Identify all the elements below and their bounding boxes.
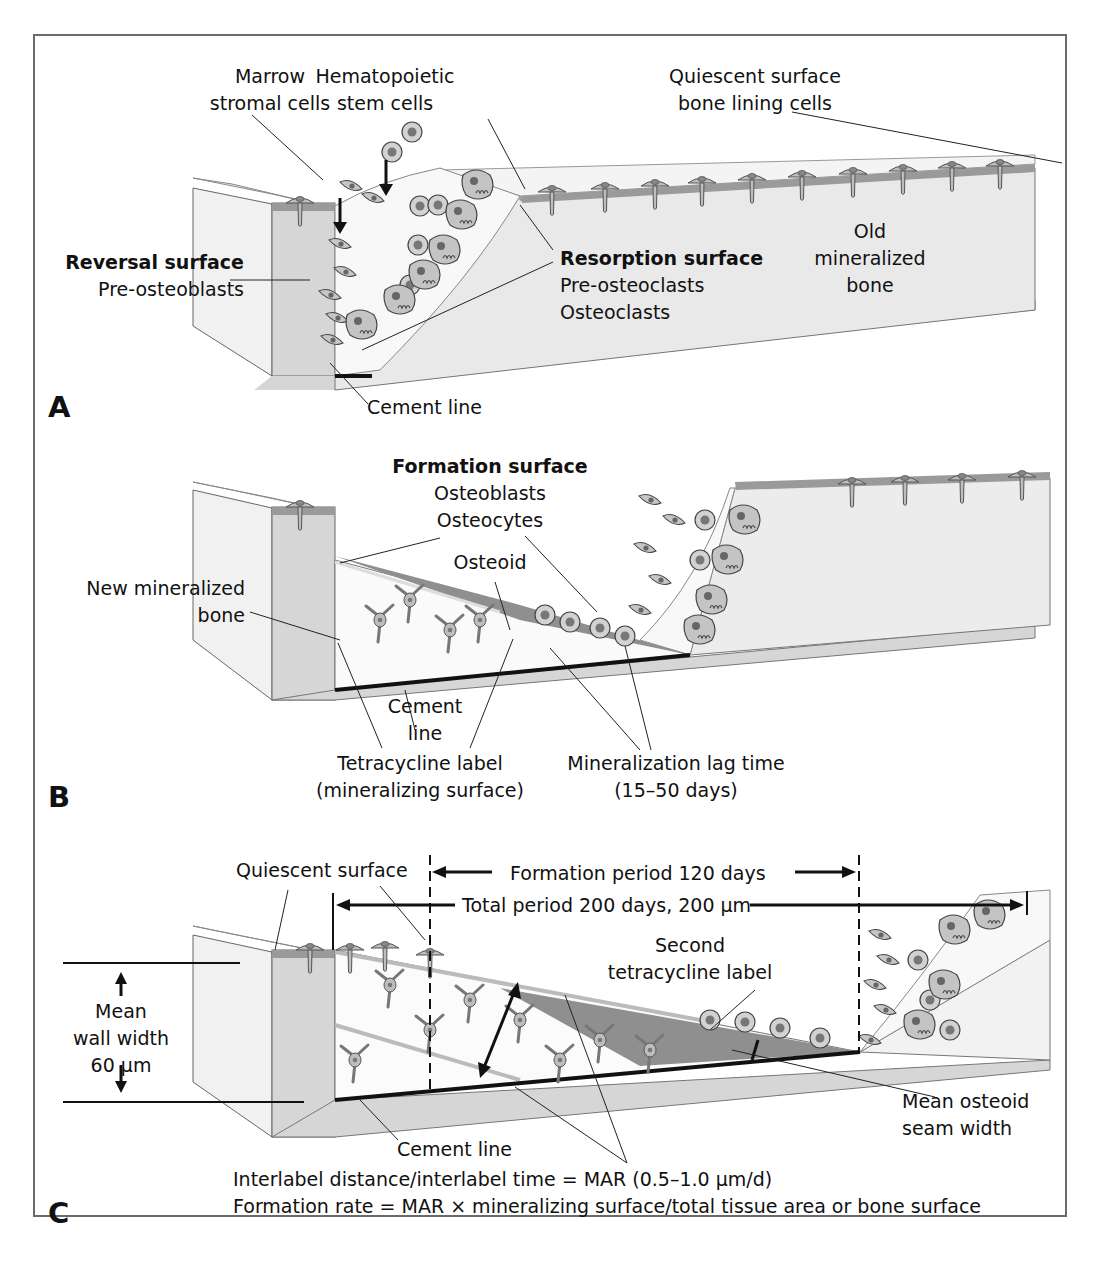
label-line: Mean osteoid (902, 1088, 1029, 1115)
label-cement-line-a: Cement line (367, 394, 482, 421)
label-line: mineralized (800, 245, 940, 272)
panel-letter-c: C (48, 1196, 69, 1230)
label-line: bone (40, 602, 245, 629)
label-line: seam width (902, 1115, 1029, 1142)
label-line: Pre-osteoclasts (560, 272, 704, 299)
label-line: Mean (66, 998, 176, 1025)
label-line: Osteoclasts (560, 299, 704, 326)
label-line: Mineralization lag time (556, 750, 796, 777)
label-hematopoietic-stem-cells: Hematopoietic stem cells (300, 63, 470, 117)
label-reversal-surface: Reversal surface (30, 249, 244, 276)
label-line: Osteocytes (400, 507, 580, 534)
label-formation-surface: Formation surface (370, 453, 610, 480)
label-mean-osteoid-seam: Mean osteoid seam width (902, 1088, 1029, 1142)
label-line: (15–50 days) (556, 777, 796, 804)
label-mineralization-lag-time: Mineralization lag time (15–50 days) (556, 750, 796, 804)
label-mar-formula: Interlabel distance/interlabel time = MA… (233, 1166, 772, 1193)
label-line: bone lining cells (655, 90, 855, 117)
label-resorption-cells: Pre-osteoclasts Osteoclasts (560, 272, 704, 326)
label-formation-rate-formula: Formation rate = MAR × mineralizing surf… (233, 1193, 981, 1220)
label-osteoid: Osteoid (440, 549, 540, 576)
label-line: Second (600, 932, 780, 959)
label-line: Old (800, 218, 940, 245)
label-line: tetracycline label (600, 959, 780, 986)
label-new-mineralized-bone: New mineralized bone (40, 575, 245, 629)
label-mean-wall-width: Mean wall width 60 μm (66, 998, 176, 1079)
label-line: stem cells (300, 90, 470, 117)
label-line: Hematopoietic (300, 63, 470, 90)
label-second-tetracycline: Second tetracycline label (600, 932, 780, 986)
label-cement-line-c: Cement line (397, 1136, 512, 1163)
label-resorption-surface: Resorption surface (560, 245, 763, 272)
label-line: 60 μm (66, 1052, 176, 1079)
label-line: Cement (375, 693, 475, 720)
label-line: Tetracycline label (305, 750, 535, 777)
label-line: Quiescent surface (655, 63, 855, 90)
label-pre-osteoblasts: Pre-osteoblasts (30, 276, 244, 303)
label-formation-cells: Osteoblasts Osteocytes (400, 480, 580, 534)
label-total-period: Total period 200 days, 200 μm (462, 892, 751, 919)
label-line: bone (800, 272, 940, 299)
label-line: wall width (66, 1025, 176, 1052)
label-line: line (375, 720, 475, 747)
label-quiescent-surface: Quiescent surface bone lining cells (655, 63, 855, 117)
panel-letter-b: B (48, 780, 70, 814)
label-cement-line-b: Cement line (375, 693, 475, 747)
label-quiescent-surface-c: Quiescent surface (236, 857, 408, 884)
label-tetracycline-label: Tetracycline label (mineralizing surface… (305, 750, 535, 804)
panel-b-art (193, 471, 1050, 751)
label-formation-period: Formation period 120 days (510, 860, 766, 887)
label-line: New mineralized (40, 575, 245, 602)
label-old-mineralized-bone: Old mineralized bone (800, 218, 940, 299)
label-line: Osteoblasts (400, 480, 580, 507)
label-line: (mineralizing surface) (305, 777, 535, 804)
panel-letter-a: A (48, 390, 70, 424)
